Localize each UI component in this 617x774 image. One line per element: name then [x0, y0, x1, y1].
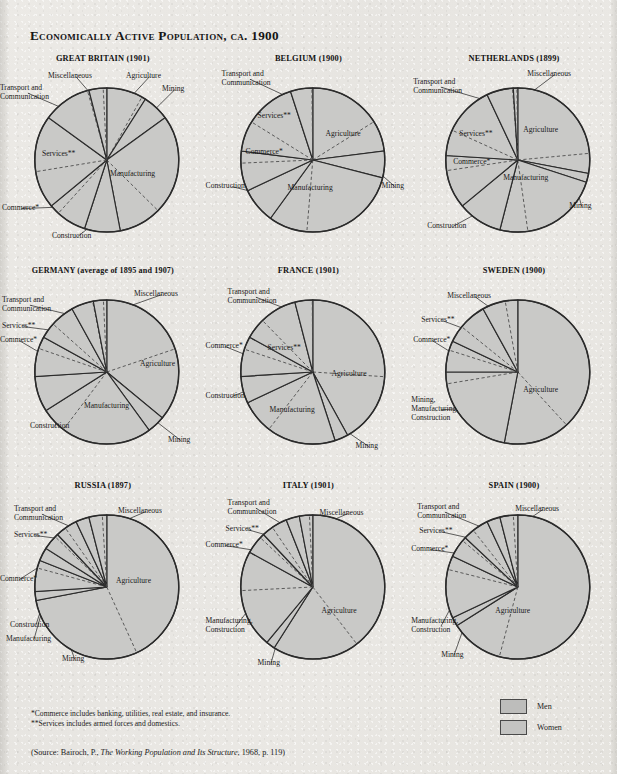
slice-label: Transport and Communication — [0, 84, 49, 102]
slice-label: Agriculture — [332, 370, 367, 379]
slice-label: Agriculture — [523, 126, 558, 135]
source-work-title: The Working Population and Its Structure — [101, 748, 238, 757]
pie-france: AgricultureMiningManufacturingConstructi… — [206, 264, 412, 479]
footnote-commerce: *Commerce includes banking, utilities, r… — [31, 709, 230, 719]
footnotes: *Commerce includes banking, utilities, r… — [31, 709, 230, 730]
chart-cell-belgium: BELGIUM (1900) AgricultureMiningManufact… — [206, 52, 412, 264]
slice-label: Agriculture — [523, 386, 558, 395]
slice-label: Commerce* — [453, 158, 490, 167]
slice-label: Miscellaneous — [527, 70, 571, 79]
slice-label: Construction — [52, 232, 91, 241]
source-suffix: , 1968, p. 119) — [238, 748, 285, 757]
slice-label: Mining — [168, 436, 190, 445]
slice-label: Manufacturing — [84, 402, 129, 411]
legend-item-men: Men — [500, 698, 562, 715]
pie-russia: AgricultureMiningManufacturingConstructi… — [0, 479, 206, 697]
slice-label: Transport and Communication — [222, 70, 271, 88]
slice-label: Miscellaneous — [320, 509, 364, 518]
slice-label: Commerce* — [413, 336, 450, 345]
legend-swatch-men — [500, 699, 527, 714]
legend-label-men: Men — [537, 702, 552, 711]
slice-label: Services** — [42, 150, 75, 159]
chart-cell-great-britain: GREAT BRITAIN (1901) AgricultureMiningMa… — [0, 52, 206, 264]
slice-label: Services** — [14, 531, 47, 540]
page-canvas: Economically Active Population, ca. 1900… — [0, 0, 617, 774]
pie-slice — [312, 88, 383, 160]
pie-sweden: AgricultureMining, Manufacturing, Constr… — [411, 264, 617, 479]
slice-label: Mining — [569, 202, 591, 211]
slice-label: Construction — [427, 222, 466, 231]
source-prefix: (Source: Bairoch, P., — [31, 748, 101, 757]
slice-label: Miscellaneous — [118, 507, 162, 516]
slice-label: Services** — [258, 112, 291, 121]
slice-label: Agriculture — [495, 607, 530, 616]
slice-label: Construction — [10, 621, 49, 630]
chart-row-1: GREAT BRITAIN (1901) AgricultureMiningMa… — [0, 52, 617, 264]
slice-label: Commerce* — [411, 545, 448, 554]
pie-netherlands: AgricultureMiningManufacturingConstructi… — [411, 52, 617, 264]
slice-label: Transport and Communication — [417, 503, 466, 521]
pie-chart-grid: GREAT BRITAIN (1901) AgricultureMiningMa… — [0, 52, 617, 697]
slice-label: Mining — [62, 655, 84, 664]
chart-row-3: RUSSIA (1897) AgricultureMiningManufactu… — [0, 479, 617, 697]
slice-label: Mining, Manufacturing, Construction — [411, 396, 458, 422]
slice-label: Transport and Communication — [413, 78, 462, 96]
source-line: (Source: Bairoch, P., The Working Popula… — [31, 748, 285, 757]
slice-label: Mining — [162, 85, 184, 94]
legend: Men Women — [500, 698, 562, 740]
slice-label: Services** — [226, 525, 259, 534]
slice-label: Manufacturing — [6, 635, 51, 644]
chart-row-2: GERMANY (average of 1895 and 1907) Agric… — [0, 264, 617, 479]
slice-label: Manufacturing — [270, 406, 315, 415]
legend-item-women: Women — [500, 719, 562, 736]
slice-label: Commerce* — [206, 342, 243, 351]
slice-label: Commerce* — [0, 336, 37, 345]
slice-label: Agriculture — [326, 130, 361, 139]
pie-great-britain: AgricultureMiningManufacturingConstructi… — [0, 52, 206, 264]
slice-label: Services** — [2, 322, 35, 331]
slice-label: Transport and Communication — [2, 296, 51, 314]
slice-label: Agriculture — [126, 72, 161, 81]
slice-label: Construction — [30, 422, 69, 431]
slice-label: Commerce* — [206, 541, 243, 550]
legend-swatch-women — [500, 720, 527, 735]
slice-label: Construction — [206, 392, 245, 401]
pie-belgium: AgricultureMiningManufacturingConstructi… — [206, 52, 412, 264]
slice-label: Services** — [421, 316, 454, 325]
slice-label: Agriculture — [322, 607, 357, 616]
pie-italy: AgricultureMiningManufacturing, Construc… — [206, 479, 412, 697]
chart-cell-italy: ITALY (1901) AgricultureMiningManufactur… — [206, 479, 412, 697]
slice-label: Manufacturing, Construction — [411, 617, 458, 635]
slice-label: Manufacturing, Construction — [206, 617, 253, 635]
slice-label: Agriculture — [116, 577, 151, 586]
chart-cell-netherlands: NETHERLANDS (1899) AgricultureMiningManu… — [411, 52, 617, 264]
pie-spain: AgricultureMiningManufacturing, Construc… — [411, 479, 617, 697]
slice-label: Mining — [382, 182, 404, 191]
slice-label: Services** — [459, 130, 492, 139]
chart-cell-spain: SPAIN (1900) AgricultureMiningManufactur… — [411, 479, 617, 697]
slice-label: Miscellaneous — [134, 290, 178, 299]
footnote-services: **Services includes armed forces and dom… — [31, 719, 230, 729]
slice-label: Mining — [258, 659, 280, 668]
chart-cell-france: FRANCE (1901) AgricultureMiningManufactu… — [206, 264, 412, 479]
slice-label: Construction — [206, 182, 245, 191]
slice-label: Manufacturing — [503, 174, 548, 183]
slice-label: Transport and Communication — [228, 288, 277, 306]
slice-label: Miscellaneous — [48, 72, 92, 81]
page-title: Economically Active Population, ca. 1900 — [30, 28, 279, 44]
slice-label: Agriculture — [140, 360, 175, 369]
chart-cell-sweden: SWEDEN (1900) AgricultureMining, Manufac… — [411, 264, 617, 479]
pie-germany: AgricultureMiningManufacturingConstructi… — [0, 264, 206, 479]
slice-label: Transport and Communication — [14, 505, 63, 523]
legend-label-women: Women — [537, 723, 562, 732]
slice-label: Mining — [356, 442, 378, 451]
slice-label: Mining — [441, 651, 463, 660]
chart-cell-russia: RUSSIA (1897) AgricultureMiningManufactu… — [0, 479, 206, 697]
slice-label: Commerce* — [246, 148, 283, 157]
slice-label: Manufacturing — [110, 170, 155, 179]
slice-label: Commerce* — [2, 204, 39, 213]
slice-label: Commerce* — [0, 575, 37, 584]
slice-label: Services** — [419, 527, 452, 536]
slice-label: Services** — [268, 344, 301, 353]
slice-label: Manufacturing — [288, 184, 333, 193]
